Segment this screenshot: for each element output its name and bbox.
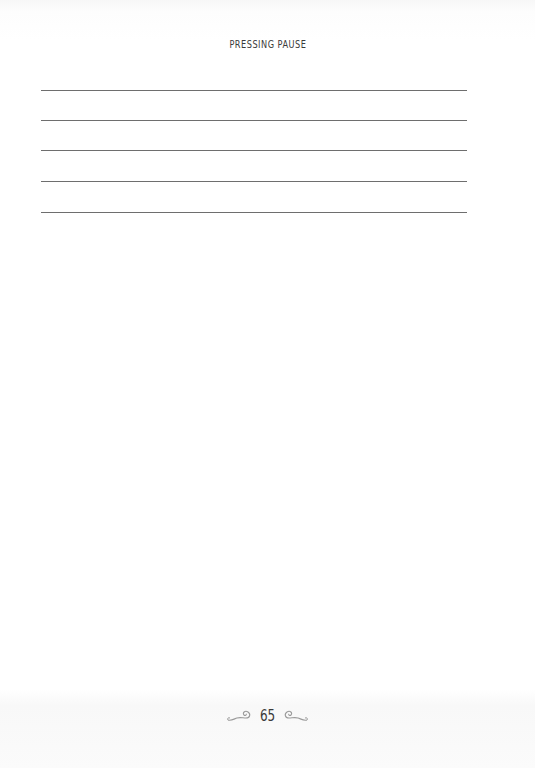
writing-line <box>41 90 467 91</box>
writing-line <box>41 150 467 151</box>
writing-line <box>41 181 467 182</box>
running-head: PRESSING PAUSE <box>49 39 488 50</box>
writing-line <box>41 212 467 213</box>
scroll-flourish-left-icon <box>226 709 252 723</box>
writing-line <box>41 120 467 121</box>
page-number: 65 <box>260 707 275 725</box>
folio: 65 <box>226 707 309 725</box>
page-footer: 65 <box>0 707 535 727</box>
book-page: PRESSING PAUSE 65 <box>0 0 535 768</box>
scroll-flourish-right-icon <box>283 709 309 723</box>
